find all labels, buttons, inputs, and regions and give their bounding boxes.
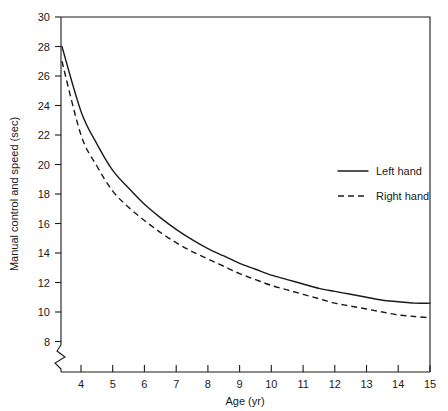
y-tick-label: 14 [38, 247, 50, 259]
x-tick-label: 11 [297, 378, 308, 390]
y-tick-label: 18 [38, 188, 50, 200]
x-tick-label: 9 [237, 378, 243, 390]
x-tick-label: 4 [78, 378, 84, 390]
x-tick-label: 10 [265, 378, 277, 390]
series-line-right-hand [62, 61, 430, 318]
y-axis-break-icon [55, 345, 65, 372]
series-line-left-hand [62, 47, 430, 304]
x-tick-label: 6 [141, 378, 147, 390]
legend-label-left-hand: Left hand [376, 165, 422, 177]
x-tick-label: 15 [424, 378, 436, 390]
x-tick-label: 7 [173, 378, 179, 390]
x-axis-title: Age (yr) [225, 395, 264, 407]
y-tick-label: 12 [38, 277, 50, 289]
legend: Left hand Right hand [338, 165, 429, 202]
x-tick-label: 13 [360, 378, 372, 390]
y-tick-label: 28 [38, 41, 50, 53]
y-tick-label: 24 [38, 100, 50, 112]
x-tick-label: 14 [392, 378, 404, 390]
legend-label-right-hand: Right hand [376, 190, 429, 202]
y-tick-marks [55, 17, 61, 342]
y-axis-title: Manual control and speed (sec) [8, 117, 20, 271]
y-tick-label: 22 [38, 129, 50, 141]
line-chart-canvas: 30 28 26 24 22 20 18 16 14 12 10 8 [0, 0, 448, 411]
y-tick-label: 20 [38, 159, 50, 171]
y-tick-labels: 30 28 26 24 22 20 18 16 14 12 10 8 [38, 11, 50, 348]
x-tick-label: 8 [205, 378, 211, 390]
chart-figure: 30 28 26 24 22 20 18 16 14 12 10 8 [0, 0, 448, 411]
y-tick-label: 16 [38, 218, 50, 230]
y-tick-label: 8 [44, 336, 50, 348]
x-tick-label: 12 [329, 378, 341, 390]
y-tick-label: 10 [38, 306, 50, 318]
x-tick-marks [81, 365, 430, 372]
y-tick-label: 26 [38, 70, 50, 82]
x-tick-label: 5 [110, 378, 116, 390]
y-tick-label: 30 [38, 11, 50, 23]
x-tick-labels: 4 5 6 7 8 9 10 11 12 13 14 15 [78, 378, 436, 390]
